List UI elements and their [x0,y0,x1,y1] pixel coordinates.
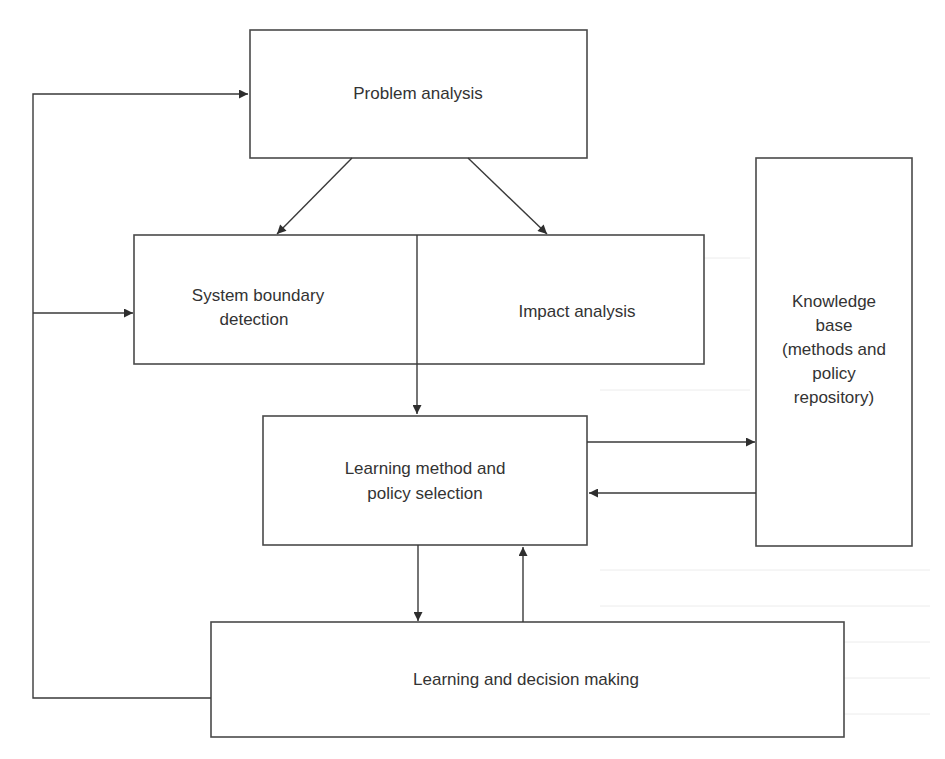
system-boundary-label-line1: System boundary [192,286,325,305]
flow-diagram: Problem analysis System boundary detecti… [0,0,945,759]
learning-method-label-line1: Learning method and [345,459,506,478]
learning-method-box [263,416,587,545]
feedback-loop-to-problem-analysis [33,94,248,698]
arrow-problem-to-impact [468,158,547,234]
arrow-problem-to-boundary [277,158,352,234]
impact-analysis-label: Impact analysis [518,302,635,321]
learning-decision-label: Learning and decision making [413,670,639,689]
system-boundary-label-line2: detection [220,310,289,329]
knowledge-base-label-line3: (methods and [782,340,886,359]
problem-analysis-label: Problem analysis [353,84,482,103]
knowledge-base-label-line2: base [816,316,853,335]
learning-method-label-line2: policy selection [367,484,482,503]
knowledge-base-label-line4: policy [812,364,856,383]
knowledge-base-label-line5: repository) [794,388,874,407]
knowledge-base-label-line1: Knowledge [792,292,876,311]
